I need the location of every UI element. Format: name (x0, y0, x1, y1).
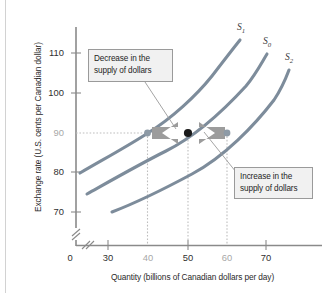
x-tick-label-60: 60 (216, 252, 238, 263)
curve-label-S0-subscript: 0 (268, 41, 271, 48)
chart-plot-area (0, 0, 330, 293)
annotation-decrease-line1: Decrease in the (94, 54, 150, 63)
shift-arrow-left (152, 122, 178, 144)
figure-container: Exchange rate (U.S. cents per Canadian d… (0, 0, 330, 293)
equilibrium-dot (184, 129, 192, 137)
annotation-decrease-line2: supply of dollars (94, 65, 168, 77)
y-tick-label-100: 100 (38, 87, 64, 98)
y-axis-break-mark-1 (72, 229, 80, 236)
y-tick-label-80: 80 (38, 166, 64, 177)
x-tick-label-0: 0 (59, 252, 81, 263)
shift-marker-40 (144, 130, 151, 137)
x-tick-label-50: 50 (177, 252, 199, 263)
curve-label-S2-subscript: 2 (290, 57, 293, 64)
x-tick-label-70: 70 (255, 252, 277, 263)
annotation-decrease-supply: Decrease in the supply of dollars (88, 49, 173, 82)
curve-label-S0: S0 (263, 35, 271, 48)
annotation-increase-line2: supply of dollars (240, 183, 308, 195)
x-tick-label-30: 30 (97, 252, 119, 263)
y-tick-label-90: 90 (38, 127, 64, 138)
x-axis-title: Quantity (billions of Canadian dollars p… (60, 272, 325, 282)
y-tick-label-110: 110 (38, 47, 64, 58)
x-tick-label-40: 40 (137, 252, 159, 263)
curve-label-S2: S2 (285, 51, 293, 64)
y-tick-label-70: 70 (38, 206, 64, 217)
y-axis-break-mark-2 (72, 233, 80, 240)
shift-arrow-right (199, 122, 225, 144)
annotation-increase-supply: Increase in the supply of dollars (234, 167, 313, 199)
leader-line-decrease (145, 82, 176, 129)
curve-label-S1-subscript: 1 (242, 27, 245, 34)
annotation-increase-line1: Increase in the (240, 172, 292, 181)
curve-label-S1: S1 (237, 21, 245, 34)
shift-marker-60 (224, 130, 231, 137)
